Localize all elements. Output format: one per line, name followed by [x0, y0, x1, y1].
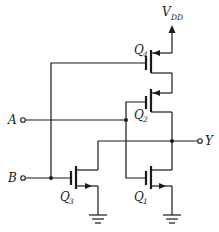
- svg-text:Y: Y: [205, 134, 214, 148]
- svg-text:3: 3: [69, 197, 74, 206]
- svg-text:1: 1: [143, 197, 148, 206]
- circuit-schematic: V DD Q 4 Q 2 A B: [0, 0, 219, 232]
- svg-text:A: A: [7, 113, 17, 127]
- svg-text:DD: DD: [170, 13, 183, 22]
- vdd-arrow-icon: [169, 25, 176, 53]
- transistor-q1: Q 1: [134, 166, 172, 215]
- transistor-q4: Q 4: [134, 43, 172, 93]
- input-a-terminal: A: [7, 113, 128, 127]
- output-y-terminal: Y: [98, 134, 214, 148]
- svg-text:2: 2: [142, 115, 148, 124]
- ground-icon: [163, 215, 181, 223]
- junction-dot: [124, 118, 128, 122]
- input-b-terminal: B: [7, 171, 70, 185]
- transistor-q2: Q 2: [134, 89, 172, 170]
- svg-text:4: 4: [142, 50, 148, 59]
- junction-dot: [170, 139, 174, 143]
- ground-icon: [89, 215, 107, 223]
- vdd-label: V DD: [162, 5, 183, 22]
- junction-dot: [49, 176, 53, 180]
- svg-text:B: B: [7, 171, 17, 185]
